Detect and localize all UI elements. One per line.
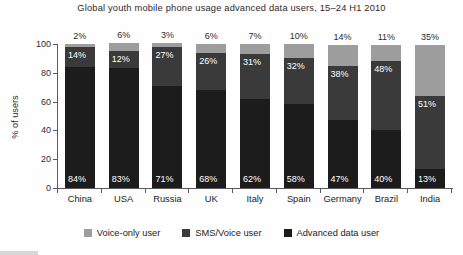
bar-segment[interactable]: 40% xyxy=(371,130,401,188)
y-axis-tick xyxy=(53,130,57,131)
bar-segment-value-label: 48% xyxy=(374,65,392,74)
y-axis-tick-label: 80 xyxy=(41,68,51,78)
x-axis-tick xyxy=(407,189,408,193)
legend-label: SMS/Voice user xyxy=(195,228,261,238)
bar-segment[interactable] xyxy=(371,45,401,61)
bar-segment-value-label: 62% xyxy=(243,175,261,184)
legend-item[interactable]: SMS/Voice user xyxy=(182,228,261,238)
bar-segment-value-label: 84% xyxy=(68,175,86,184)
legend-swatch-icon xyxy=(284,229,292,237)
bar-segment[interactable]: 62% xyxy=(240,99,270,188)
bar-segment[interactable]: 84% xyxy=(65,67,95,188)
bar-segment[interactable] xyxy=(328,45,358,65)
bar-segment[interactable]: 27% xyxy=(152,47,182,86)
y-axis-title-text: % of users xyxy=(10,95,20,138)
x-axis-tick xyxy=(232,189,233,193)
legend-label: Voice-only user xyxy=(97,228,161,238)
bar-stack[interactable]: 3%27%71% xyxy=(152,43,182,188)
bar-segment[interactable] xyxy=(415,45,445,95)
y-axis-tick-label: 0 xyxy=(46,183,51,193)
bar-segment-value-label: 27% xyxy=(155,51,173,60)
bar-segment-value-label: 26% xyxy=(199,57,217,66)
bar-top-value-label: 2% xyxy=(65,31,95,41)
bar-segment-value-label: 68% xyxy=(199,175,217,184)
x-axis-category-labels: ChinaUSARussiaUKItalySpainGermanyBrazilI… xyxy=(58,194,452,208)
bar-segment[interactable]: 58% xyxy=(284,104,314,188)
bar-segment[interactable]: 31% xyxy=(240,54,270,99)
bar-segment[interactable]: 38% xyxy=(328,66,358,121)
bar-segment-value-label: 58% xyxy=(287,175,305,184)
x-axis-category-label: India xyxy=(403,194,457,204)
bar-stack[interactable]: 14%38%47% xyxy=(328,45,358,188)
bar-stack[interactable]: 6%26%68% xyxy=(196,44,226,188)
x-axis-tick xyxy=(451,189,452,193)
bar-segment-value-label: 71% xyxy=(155,175,173,184)
bar-segment[interactable]: 32% xyxy=(284,58,314,104)
y-axis-tick xyxy=(53,73,57,74)
x-axis-tick xyxy=(320,189,321,193)
legend-item[interactable]: Voice-only user xyxy=(84,228,161,238)
bar-segment-value-label: 12% xyxy=(112,55,130,64)
bar-top-value-label: 35% xyxy=(415,32,445,42)
y-axis-title: % of users xyxy=(8,44,22,189)
bar-segment-value-label: 40% xyxy=(374,175,392,184)
bar-segment[interactable] xyxy=(240,44,270,54)
bar-segment-value-label: 38% xyxy=(331,70,349,79)
bar-segment[interactable]: 47% xyxy=(328,120,358,188)
bar-segment-value-label: 47% xyxy=(331,175,349,184)
legend-swatch-icon xyxy=(84,229,92,237)
chart-figure: Global youth mobile phone usage advanced… xyxy=(0,0,463,255)
y-axis-tick-label: 20 xyxy=(41,154,51,164)
bar-stack[interactable]: 7%31%62% xyxy=(240,44,270,188)
bar-top-value-label: 6% xyxy=(196,31,226,41)
y-axis-tick xyxy=(53,44,57,45)
chart-title: Global youth mobile phone usage advanced… xyxy=(0,3,463,13)
y-axis-tick-label: 40 xyxy=(41,125,51,135)
y-axis-tick-label: 100 xyxy=(36,39,51,49)
bar-top-value-label: 3% xyxy=(152,30,182,40)
bar-segment[interactable]: 71% xyxy=(152,86,182,188)
bar-segment[interactable] xyxy=(196,44,226,53)
bar-stack[interactable]: 2%14%84% xyxy=(65,44,95,188)
y-axis-tick-label: 60 xyxy=(41,97,51,107)
bar-top-value-label: 14% xyxy=(328,32,358,42)
bar-segment[interactable]: 14% xyxy=(65,47,95,67)
bar-segment[interactable] xyxy=(284,44,314,58)
bar-segment-value-label: 83% xyxy=(112,175,130,184)
bar-segment-value-label: 51% xyxy=(418,100,436,109)
bar-segment[interactable]: 26% xyxy=(196,53,226,90)
bar-segment-value-label: 13% xyxy=(418,175,436,184)
y-axis-tick xyxy=(53,102,57,103)
bar-segment-value-label: 31% xyxy=(243,58,261,67)
x-axis-tick xyxy=(57,189,58,193)
bar-segment[interactable]: 51% xyxy=(415,96,445,169)
bar-top-value-label: 6% xyxy=(109,30,139,40)
bar-segment[interactable]: 83% xyxy=(109,68,139,188)
bar-stack[interactable]: 6%12%83% xyxy=(109,43,139,188)
legend-item[interactable]: Advanced data user xyxy=(284,228,380,238)
x-axis-tick xyxy=(188,189,189,193)
x-axis-tick xyxy=(363,189,364,193)
x-axis-tick xyxy=(276,189,277,193)
x-axis-tick xyxy=(101,189,102,193)
page-edge-artifact xyxy=(0,251,38,255)
bar-stack[interactable]: 10%32%58% xyxy=(284,44,314,188)
bar-segment[interactable]: 13% xyxy=(415,169,445,188)
bar-segment[interactable] xyxy=(109,43,139,52)
legend-swatch-icon xyxy=(182,229,190,237)
bar-segment-value-label: 32% xyxy=(287,62,305,71)
bar-stack[interactable]: 11%48%40% xyxy=(371,45,401,188)
bar-segment[interactable]: 68% xyxy=(196,90,226,188)
bar-top-value-label: 11% xyxy=(371,32,401,42)
bar-top-value-label: 10% xyxy=(284,31,314,41)
bar-segment-value-label: 14% xyxy=(68,51,86,60)
bar-segment[interactable]: 12% xyxy=(109,51,139,68)
chart-legend: Voice-only userSMS/Voice userAdvanced da… xyxy=(0,228,463,238)
y-axis-tick xyxy=(53,159,57,160)
plot-area: 2%14%84%6%12%83%3%27%71%6%26%68%7%31%62%… xyxy=(58,44,452,188)
legend-label: Advanced data user xyxy=(297,228,380,238)
x-axis-tick xyxy=(145,189,146,193)
bar-segment[interactable]: 48% xyxy=(371,61,401,130)
bar-top-value-label: 7% xyxy=(240,31,270,41)
bar-stack[interactable]: 35%51%13% xyxy=(415,45,445,188)
